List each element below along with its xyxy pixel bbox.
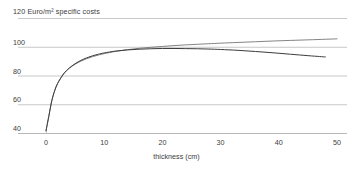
y-tick-label: 60 (13, 95, 21, 104)
y-axis-top-annotation: 120 Euro/m² specific costs (13, 7, 100, 16)
y-axis-top-annotation-text: 120 Euro/m² specific costs (13, 7, 100, 16)
x-tick-label: 0 (44, 138, 48, 147)
series-lines (46, 39, 337, 131)
chart-plot-area (0, 0, 353, 173)
y-tick-label: 80 (13, 67, 21, 76)
y-tick-label: 100 (13, 38, 25, 47)
x-tick-label: 10 (100, 138, 108, 147)
gridlines (18, 19, 347, 134)
series-line-1 (46, 48, 325, 130)
x-axis-title: thickness (cm) (0, 152, 353, 161)
x-tick-label: 30 (217, 138, 225, 147)
chart-container: 120 Euro/m² specific costs 406080100 010… (0, 0, 353, 173)
series-line-0 (46, 39, 337, 131)
x-axis-title-text: thickness (cm) (153, 152, 199, 161)
y-tick-label: 40 (13, 124, 21, 133)
x-tick-label: 20 (158, 138, 166, 147)
x-tick-label: 50 (333, 138, 341, 147)
x-tick-label: 40 (275, 138, 283, 147)
